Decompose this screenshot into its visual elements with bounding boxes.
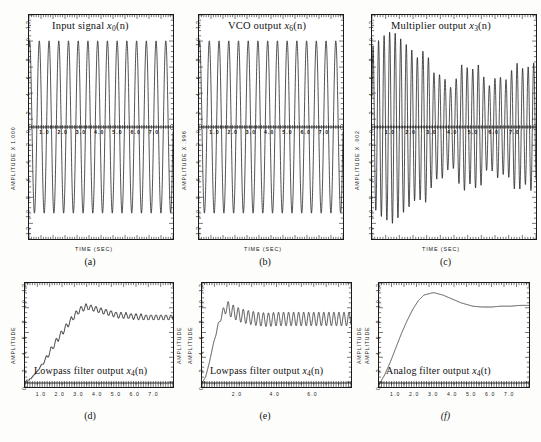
panel-caption-a: (a) xyxy=(0,256,180,267)
panel-caption-f: (f) xyxy=(350,410,541,421)
plot-title-d: Lowpass filter output x4(n) xyxy=(34,365,147,378)
plot-area-c xyxy=(371,14,537,240)
y-axis-label-c: AMPLITUDE X .002 xyxy=(354,130,360,190)
x-axis-label-a: TIME (SEC) xyxy=(75,246,113,252)
y-axis-label-a: AMPLITUDE X 1.000 xyxy=(10,127,16,190)
plot-title-e: Lowpass filter output x4(n) xyxy=(210,365,323,378)
panel-caption-e: (e) xyxy=(180,410,350,421)
plot-title-c: Multiplier output x3(n) xyxy=(391,20,491,33)
y-axis-label-b: AMPLITUDE X .996 xyxy=(181,130,187,190)
panel-caption-d: (d) xyxy=(0,410,180,421)
plot-area-a xyxy=(28,14,174,240)
y-axis-label-f: AMPLITUDE xyxy=(364,327,370,364)
panel-caption-b: (b) xyxy=(180,256,350,267)
figure-grid: Input signal x0(n) AMPLITUDE X 1.000 TIM… xyxy=(0,0,541,442)
y-axis-label-e: AMPLITUDE xyxy=(187,327,193,364)
plot-title-f: Analog filter output x4(t) xyxy=(386,365,491,378)
panel-a: Input signal x0(n) AMPLITUDE X 1.000 TIM… xyxy=(0,0,180,272)
plot-title-a: Input signal x0(n) xyxy=(52,20,129,33)
panel-d: Lowpass filter output x4(n) AMPLITUDE AM… xyxy=(0,272,180,442)
plot-title-b: VCO output x6(n) xyxy=(228,20,306,33)
panel-f: Analog filter output x4(t) AMPLITUDE (f) xyxy=(350,272,541,442)
panel-c: Multiplier output x3(n) AMPLITUDE X .002… xyxy=(350,0,541,272)
x-axis-label-b: TIME (SEC) xyxy=(244,246,282,252)
panel-b: VCO output x6(n) AMPLITUDE X .996 TIME (… xyxy=(180,0,350,272)
panel-e: Lowpass filter output x4(n) AMPLITUDE AM… xyxy=(180,272,350,442)
panel-caption-c: (c) xyxy=(350,256,541,267)
x-axis-label-c: TIME (SEC) xyxy=(422,246,460,252)
plot-area-b xyxy=(198,14,344,240)
y-axis-label-d: AMPLITUDE xyxy=(10,327,16,364)
